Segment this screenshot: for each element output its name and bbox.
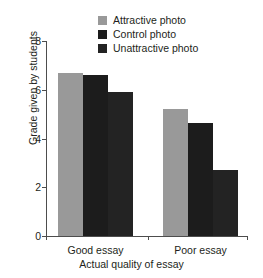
x-axis-tick: [247, 236, 248, 240]
y-axis-tick: [42, 187, 46, 188]
x-axis-title: Actual quality of essay: [0, 258, 263, 270]
y-axis-tick: [42, 41, 46, 42]
bar: [213, 170, 238, 236]
bar: [188, 123, 213, 236]
x-axis-group-label: Poor essay: [174, 244, 227, 256]
y-axis-tick: [42, 90, 46, 91]
legend-swatch-attractive-photo: [98, 16, 107, 25]
y-axis-title: Grade given by students: [27, 8, 39, 168]
x-axis-group-label: Good essay: [67, 244, 123, 256]
x-axis-tick: [148, 236, 149, 240]
legend-item-control-photo: Control photo: [98, 27, 248, 41]
y-axis-tick-label: 0: [35, 231, 41, 242]
legend-label-attractive-photo: Attractive photo: [113, 14, 186, 26]
legend-swatch-control-photo: [98, 30, 107, 39]
y-axis-tick-label: 2: [35, 182, 41, 193]
x-axis-line: [46, 236, 248, 237]
y-axis-tick: [42, 139, 46, 140]
bar-chart-figure: Attractive photo Control photo Unattract…: [0, 0, 263, 278]
bar: [163, 109, 188, 236]
bar: [108, 92, 133, 236]
x-axis-tick: [46, 236, 47, 240]
bar: [83, 75, 108, 236]
legend-label-control-photo: Control photo: [113, 28, 176, 40]
legend-item-attractive-photo: Attractive photo: [98, 13, 248, 27]
bar: [58, 73, 83, 236]
plot-area: 02468 Good essayPoor essay: [46, 41, 248, 236]
y-axis-line: [46, 41, 47, 236]
